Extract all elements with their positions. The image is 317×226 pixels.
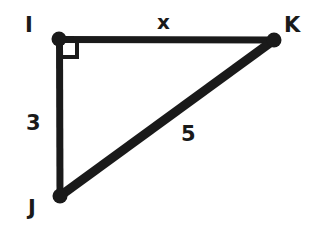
vertex-dot-J — [53, 189, 68, 204]
edge-JK-line — [60, 40, 274, 196]
edge-IJ-line — [60, 39, 61, 196]
vertex-label-I: I — [25, 15, 33, 36]
side-length-label-IJ: 3 — [26, 113, 41, 134]
side-length-label-IK: x — [157, 12, 170, 32]
side-length-label-JK: 5 — [181, 124, 196, 145]
vertex-label-K: K — [284, 15, 300, 36]
edge-IK-line — [59, 40, 274, 41]
vertex-label-J: J — [28, 198, 36, 219]
vertex-dot-K — [267, 33, 282, 48]
geometry-figure: I J K x 3 5 — [0, 0, 317, 226]
vertex-dot-I — [52, 32, 67, 47]
